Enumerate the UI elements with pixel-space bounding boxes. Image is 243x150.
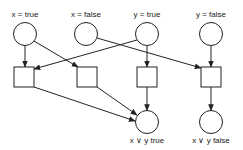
place-p_xy_true (136, 111, 159, 134)
label-xy-false: x ∨ y false (192, 137, 230, 145)
label-y-false: y = false (196, 11, 226, 19)
transition-t1 (14, 67, 34, 87)
place-p_y_true (136, 23, 159, 46)
place-p_x_false (75, 23, 98, 46)
arc-t2-to-p_xy_true (97, 87, 137, 115)
label-xy-true: x ∨ y true (130, 137, 164, 145)
places-layer (14, 23, 223, 134)
label-x-false: x = false (71, 11, 101, 19)
arcs-layer (25, 38, 211, 121)
place-p_xy_false (200, 111, 223, 134)
transition-t3 (137, 67, 157, 87)
place-p_y_false (200, 23, 223, 46)
place-p_x_true (14, 23, 37, 46)
petri-net-diagram (0, 0, 243, 150)
transition-t2 (77, 67, 97, 87)
label-x-true: x = true (12, 11, 39, 19)
transitions-layer (14, 67, 221, 87)
label-y-true: y = true (134, 11, 161, 19)
transition-t4 (201, 67, 221, 87)
arc-t1-to-p_xy_true (34, 87, 135, 121)
